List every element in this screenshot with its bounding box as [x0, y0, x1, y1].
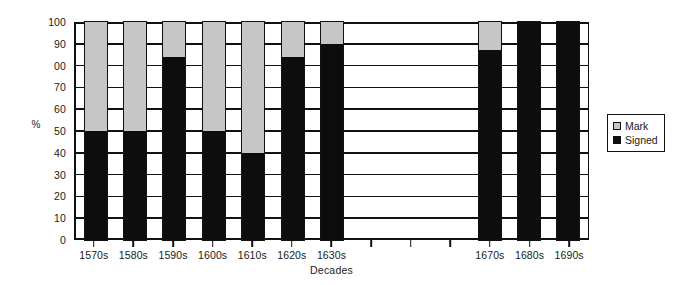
y-axis-tick-labels: 1009000706050403020100	[40, 22, 66, 240]
chart-legend: MarkSigned	[607, 114, 665, 152]
bar-segment-signed[interactable]	[85, 131, 107, 240]
x-axis-tick-label: 1580s	[114, 248, 154, 264]
legend-item[interactable]: Signed	[613, 133, 658, 147]
bar-segment-signed[interactable]	[321, 44, 343, 240]
y-axis-tick-label: 0	[40, 235, 66, 246]
stacked-bar[interactable]	[124, 22, 146, 240]
bar-segment-mark[interactable]	[124, 22, 146, 131]
x-axis-tick	[193, 240, 233, 247]
stacked-bar[interactable]	[85, 22, 107, 240]
stacked-bar-chart: % 1009000706050403020100 1570s1580s1590s…	[0, 0, 685, 285]
stacked-bar[interactable]	[163, 22, 185, 240]
bar-segment-mark[interactable]	[163, 22, 185, 57]
x-axis-tick-mark	[212, 240, 214, 247]
y-axis-tick-label: 40	[40, 147, 66, 158]
x-axis-tick-label: 1680s	[510, 248, 550, 264]
bar-slot	[549, 22, 588, 240]
x-axis-tick-label: 1610s	[232, 248, 272, 264]
bar-slot	[312, 22, 351, 240]
bar-slot	[470, 22, 509, 240]
bar-slot	[431, 22, 470, 240]
bar-slot	[115, 22, 154, 240]
x-axis-tick	[391, 240, 431, 247]
x-axis-tick	[510, 240, 550, 247]
legend-swatch-icon	[613, 136, 621, 144]
legend-swatch-icon	[613, 122, 621, 130]
plot-area	[74, 22, 589, 240]
y-axis-tick-label: 20	[40, 191, 66, 202]
legend-item[interactable]: Mark	[613, 119, 658, 133]
stacked-bar[interactable]	[242, 22, 264, 240]
stacked-bar[interactable]	[557, 22, 579, 240]
x-axis-tick-mark	[568, 240, 570, 247]
bar-segment-mark[interactable]	[479, 22, 501, 50]
bar-segment-mark[interactable]	[321, 22, 343, 44]
x-axis-tick-mark	[370, 240, 372, 247]
stacked-bar[interactable]	[282, 22, 304, 240]
bar-slot	[234, 22, 273, 240]
x-axis-tick-label: 1620s	[272, 248, 312, 264]
bar-slot	[273, 22, 312, 240]
x-axis-tick	[351, 240, 391, 247]
bar-slot	[155, 22, 194, 240]
bar-segment-mark[interactable]	[85, 22, 107, 131]
x-axis-tick-mark	[133, 240, 135, 247]
bar-segment-signed[interactable]	[203, 131, 225, 240]
x-axis-tick	[114, 240, 154, 247]
x-axis-ticks	[74, 240, 589, 247]
x-axis-tick-labels: 1570s1580s1590s1600s1610s1620s1630s1670s…	[74, 248, 589, 264]
x-axis-tick-label: 1630s	[312, 248, 352, 264]
x-axis-tick-mark	[291, 240, 293, 247]
y-axis-tick-label: 90	[40, 38, 66, 49]
x-axis-tick	[470, 240, 510, 247]
stacked-bar[interactable]	[321, 22, 343, 240]
x-axis-tick-label: 1670s	[470, 248, 510, 264]
bar-segment-signed[interactable]	[242, 153, 264, 240]
x-axis-tick	[549, 240, 589, 247]
x-axis-tick	[430, 240, 470, 247]
stacked-bar[interactable]	[479, 22, 501, 240]
y-axis-tick-label: 100	[40, 17, 66, 28]
y-axis-tick-label: 70	[40, 82, 66, 93]
x-axis-tick-mark	[251, 240, 253, 247]
x-axis-tick	[312, 240, 352, 247]
y-axis-tick-label: 10	[40, 213, 66, 224]
x-axis-tick-label	[430, 248, 470, 264]
x-axis-tick-mark	[331, 240, 333, 247]
x-axis-title: Decades	[74, 264, 589, 276]
y-axis-tick-label: 60	[40, 104, 66, 115]
bar-segment-mark[interactable]	[282, 22, 304, 57]
bar-segment-signed[interactable]	[557, 22, 579, 240]
stacked-bar[interactable]	[203, 22, 225, 240]
bar-segment-signed[interactable]	[124, 131, 146, 240]
x-axis-tick-mark	[410, 240, 412, 247]
bar-segment-mark[interactable]	[242, 22, 264, 153]
bar-slot	[352, 22, 391, 240]
bar-segment-signed[interactable]	[163, 57, 185, 240]
x-axis-tick	[232, 240, 272, 247]
bar-segment-mark[interactable]	[203, 22, 225, 131]
x-axis-tick	[272, 240, 312, 247]
x-axis-tick-mark	[489, 240, 491, 247]
x-axis-tick-label: 1590s	[153, 248, 193, 264]
x-axis-tick	[74, 240, 114, 247]
bar-segment-signed[interactable]	[282, 57, 304, 240]
legend-label: Signed	[625, 134, 658, 146]
legend-label: Mark	[625, 120, 648, 132]
x-axis-tick-mark	[449, 240, 451, 247]
x-axis-tick	[153, 240, 193, 247]
x-axis-tick-label	[351, 248, 391, 264]
bar-slot	[194, 22, 233, 240]
x-axis-tick-label	[391, 248, 431, 264]
y-axis-tick-label: 50	[40, 126, 66, 137]
bar-slot	[76, 22, 115, 240]
bar-segment-signed[interactable]	[518, 22, 540, 240]
bar-slot	[391, 22, 430, 240]
y-axis-tick-label: 30	[40, 169, 66, 180]
x-axis-tick-label: 1600s	[193, 248, 233, 264]
y-axis-tick-label: 00	[40, 60, 66, 71]
stacked-bar[interactable]	[518, 22, 540, 240]
x-axis-tick-mark	[172, 240, 174, 247]
bar-segment-signed[interactable]	[479, 50, 501, 240]
bar-slot	[509, 22, 548, 240]
